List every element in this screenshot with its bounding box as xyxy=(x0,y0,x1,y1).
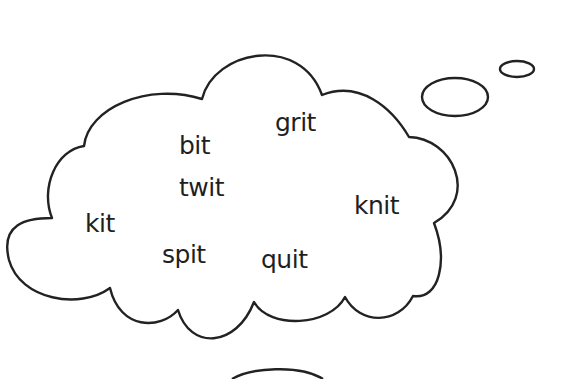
word-grit: grit xyxy=(275,110,316,135)
word-quit: quit xyxy=(261,247,307,272)
thought-cloud-graphic xyxy=(0,0,569,379)
thought-bubble-small xyxy=(500,61,534,77)
word-spit: spit xyxy=(162,242,206,267)
word-kit: kit xyxy=(85,211,115,236)
bottom-cloud-edge xyxy=(232,369,323,379)
word-bit: bit xyxy=(179,133,210,158)
word-twit: twit xyxy=(179,175,224,200)
thought-bubble-large xyxy=(422,78,488,116)
word-knit: knit xyxy=(354,193,399,218)
